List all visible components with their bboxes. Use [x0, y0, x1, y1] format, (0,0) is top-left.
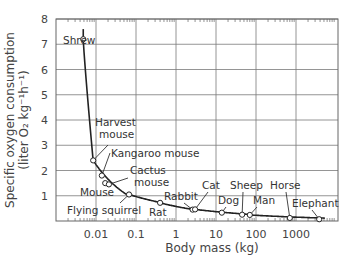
data-point-elephant	[317, 217, 322, 222]
label-rabbit: Rabbit	[164, 190, 198, 202]
x-axis-tick-labels: 0.010.11101001000	[84, 228, 310, 241]
x-tick-label: 1	[173, 228, 180, 241]
label-mouse: Mouse	[80, 186, 114, 198]
label-harvest: Harvest	[95, 116, 136, 128]
data-point-harvest-mouse	[91, 158, 96, 163]
y-tick-label: 1	[41, 190, 48, 203]
label-elephant: Elephant	[292, 197, 339, 209]
label-rat: Rat	[149, 206, 167, 218]
label-kangaroo-mouse: Kangaroo mouse	[111, 147, 199, 159]
y-tick-label: 8	[41, 13, 48, 26]
y-tick-label: 2	[41, 165, 48, 178]
data-point-cat	[192, 207, 197, 212]
label-line2: mouse	[99, 128, 134, 140]
data-point-labels: ShrewHarvestmouseKangaroo mouseCactusmou…	[63, 34, 339, 218]
label-flying-squirrel: Flying squirrel	[67, 204, 141, 216]
x-tick-label: 0.1	[127, 228, 145, 241]
label-cactus: Cactus	[130, 164, 166, 176]
leader-line	[102, 153, 110, 176]
y-tick-label: 4	[41, 114, 48, 127]
x-tick-label: 1000	[282, 228, 310, 241]
x-axis-title: Body mass (kg)	[165, 241, 258, 255]
data-point-flying-squirrel	[126, 192, 131, 197]
x-tick-label: 10	[209, 228, 223, 241]
oxygen-consumption-chart: 12345678 0.010.11101001000 ShrewHarvestm…	[0, 0, 356, 271]
y-tick-label: 3	[41, 139, 48, 152]
y-tick-label: 6	[41, 64, 48, 77]
label-sheep: Sheep	[230, 179, 263, 191]
label-horse: Horse	[270, 179, 301, 191]
y-axis-tick-labels: 12345678	[41, 13, 48, 203]
data-point-kangaroo-mouse	[99, 173, 104, 178]
label-man: Man	[253, 194, 275, 206]
label-dog: Dog	[218, 194, 239, 206]
data-point-dog	[219, 210, 224, 215]
label-cat: Cat	[202, 179, 220, 191]
y-tick-label: 7	[41, 38, 48, 51]
label-shrew: Shrew	[63, 34, 96, 46]
data-point-sheep	[240, 212, 245, 217]
x-tick-label: 0.01	[84, 228, 109, 241]
y-tick-label: 5	[41, 89, 48, 102]
data-point-horse	[287, 215, 292, 220]
data-point-rat	[157, 200, 162, 205]
y-axis-units: (liter O₂ kg⁻¹h⁻¹)	[17, 70, 31, 169]
data-point-man	[247, 212, 252, 217]
y-axis-title: Specific oxygen consumption	[3, 32, 17, 208]
label-line2: mouse	[134, 176, 169, 188]
x-tick-label: 100	[246, 228, 267, 241]
leader-line	[93, 145, 108, 160]
